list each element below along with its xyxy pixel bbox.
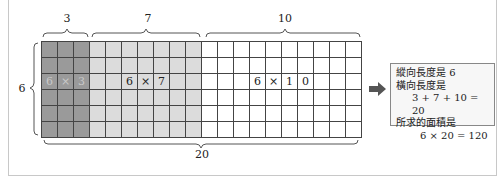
grid-cell <box>330 42 346 58</box>
grid-cell <box>330 106 346 122</box>
grid-cell <box>42 90 58 106</box>
grid-cell <box>74 42 90 58</box>
grid-cell <box>74 122 90 138</box>
product-label-cell: 7 <box>154 74 170 90</box>
grid-cell <box>122 106 138 122</box>
grid-cell <box>154 58 170 74</box>
grid-cell <box>58 90 74 106</box>
grid-cell <box>218 74 234 90</box>
grid-cell <box>298 106 314 122</box>
grid-cell <box>170 42 186 58</box>
grid-cell <box>202 42 218 58</box>
grid-cell <box>250 42 266 58</box>
grid-cell <box>266 42 282 58</box>
grid-cell <box>186 58 202 74</box>
grid-cell <box>138 58 154 74</box>
grid-cell <box>170 106 186 122</box>
grid-cell <box>202 106 218 122</box>
grid-cell <box>90 74 106 90</box>
grid-cell <box>42 122 58 138</box>
grid-cell <box>234 74 250 90</box>
grid-cell <box>106 58 122 74</box>
grid-cell <box>170 122 186 138</box>
horizontal-sum-text: 3 + 7 + 10 = 20 <box>396 92 489 117</box>
grid-cell <box>330 90 346 106</box>
grid-cell <box>266 122 282 138</box>
grid-cell <box>346 74 362 90</box>
grid-cell <box>186 90 202 106</box>
grid-cell <box>74 90 90 106</box>
grid-cell <box>218 122 234 138</box>
grid-cell <box>90 90 106 106</box>
grid-cell <box>234 106 250 122</box>
grid-cell <box>346 106 362 122</box>
grid-cell <box>186 42 202 58</box>
grid-cell <box>170 74 186 90</box>
grid-cell <box>314 106 330 122</box>
grid-cell <box>154 106 170 122</box>
grid-cell <box>298 90 314 106</box>
grid-cell <box>250 106 266 122</box>
grid-cell <box>138 42 154 58</box>
grid-cell <box>90 42 106 58</box>
grid-cell <box>330 74 346 90</box>
grid-cell <box>106 74 122 90</box>
horizontal-length-text: 橫向長度是 <box>396 80 489 93</box>
grid-cell <box>234 90 250 106</box>
grid-cell <box>266 90 282 106</box>
grid-cell <box>218 42 234 58</box>
grid-cell <box>314 58 330 74</box>
grid-cell <box>250 90 266 106</box>
grid-cell <box>90 122 106 138</box>
grid-cell <box>138 106 154 122</box>
grid-cell <box>282 42 298 58</box>
grid-cell <box>298 122 314 138</box>
right-arrow-icon <box>369 82 386 96</box>
grid-cell <box>330 122 346 138</box>
grid-cell <box>106 106 122 122</box>
product-label-cell: × <box>266 74 282 90</box>
product-label-cell: 3 <box>74 74 90 90</box>
vertical-length-text: 縱向長度是 6 <box>396 67 489 80</box>
area-result-text: 6 × 20 = 120 <box>396 130 489 143</box>
grid-cell <box>42 58 58 74</box>
grid-cell <box>170 58 186 74</box>
grid-cell <box>282 58 298 74</box>
grid-cell <box>186 122 202 138</box>
grid-cell <box>282 90 298 106</box>
grid-cell <box>58 58 74 74</box>
grid-cell <box>106 90 122 106</box>
product-label-cell: × <box>58 74 74 90</box>
grid-cell <box>330 58 346 74</box>
grid-cell <box>122 90 138 106</box>
grid-cell <box>346 90 362 106</box>
grid-cell <box>346 42 362 58</box>
grid-cell <box>58 122 74 138</box>
grid-cell <box>282 122 298 138</box>
grid-cell <box>314 74 330 90</box>
grid-cell <box>154 90 170 106</box>
grid-cell <box>346 122 362 138</box>
product-label-cell: 6 <box>250 74 266 90</box>
grid-cell <box>218 58 234 74</box>
grid-cell <box>74 58 90 74</box>
grid-cell <box>42 106 58 122</box>
grid-cell <box>266 58 282 74</box>
product-label-cell: 6 <box>42 74 58 90</box>
grid-cell <box>106 122 122 138</box>
grid-cell <box>122 58 138 74</box>
product-label-cell: 0 <box>298 74 314 90</box>
grid-cell <box>138 122 154 138</box>
grid-cell <box>234 42 250 58</box>
area-grid: 6×36×76×10 <box>41 41 362 138</box>
grid-cell <box>314 90 330 106</box>
grid-cell <box>202 122 218 138</box>
grid-cell <box>250 58 266 74</box>
grid-cell <box>186 106 202 122</box>
grid-cell <box>42 42 58 58</box>
grid-cell <box>346 58 362 74</box>
grid-cell <box>154 42 170 58</box>
grid-cell <box>122 42 138 58</box>
grid-cell <box>154 122 170 138</box>
grid-cell <box>202 58 218 74</box>
